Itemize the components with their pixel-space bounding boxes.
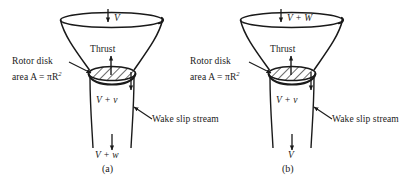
panel-a-rotor-disk	[89, 67, 136, 81]
panel-b-wake-leader-line	[314, 107, 332, 119]
panel-a-funnel-right-wall	[134, 20, 163, 70]
panel-a-wake-slip-stream-label: Wake slip stream	[152, 114, 219, 125]
panel-b-thrust-label: Thrust	[270, 44, 295, 55]
panel-b-rotor-area-exponent: 2	[236, 70, 239, 77]
panel-a-inflow-label: V	[114, 13, 120, 24]
panel-a-bottom-flow-label: V + w	[95, 150, 119, 161]
panel-b-funnel-right-wall	[314, 20, 343, 70]
panel-a-rotor-disk-label-line1: Rotor disk	[12, 56, 53, 66]
panel-b-wake-slip-stream-label: Wake slip stream	[332, 114, 399, 125]
panel-b-caption: (b)	[282, 163, 294, 174]
panel-a-wake-leader-line	[134, 107, 152, 119]
panel-b-rotor-disk-label: Rotor disk area A = πR2	[190, 56, 240, 83]
panel-b-inflow-label: V + W	[287, 13, 312, 24]
panel-a-funnel-left-wall	[61, 20, 90, 70]
panel-a-slipstream-left-wall	[90, 78, 93, 148]
panel-a-rotor-disk-label: Rotor disk area A = πR2	[12, 56, 62, 83]
panel-b-bottom-flow-label: V	[288, 150, 294, 161]
panel-b	[241, 9, 344, 150]
panel-b-rotor-disk	[269, 67, 316, 81]
panel-b-funnel-left-wall	[241, 20, 270, 70]
panel-b-rotor-disk-label-line1: Rotor disk	[190, 56, 231, 66]
panel-a-thrust-label: Thrust	[90, 44, 115, 55]
panel-b-slipstream-left-wall	[270, 78, 273, 148]
panel-a-rotor-area-exponent: 2	[58, 70, 61, 77]
panel-b-rotor-disk-label-line2: area A = πR2	[190, 72, 240, 82]
panel-a-disk-flow-label: V + v	[96, 95, 118, 106]
panel-a-caption: (a)	[102, 163, 113, 174]
panel-b-disk-flow-label: V + v	[276, 95, 298, 106]
panel-a-rotor-disk-label-line2: area A = πR2	[12, 72, 62, 82]
panel-a-inlet-ellipse	[61, 13, 163, 28]
panel-a	[61, 9, 164, 150]
